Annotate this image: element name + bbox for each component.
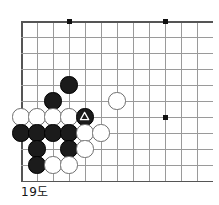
- black-stone-marked-triangle[interactable]: [76, 108, 93, 125]
- diagram-caption: 19도: [21, 182, 49, 199]
- go-board[interactable]: [0, 0, 219, 182]
- black-stone[interactable]: [60, 140, 77, 157]
- white-stone[interactable]: [108, 92, 125, 109]
- white-stone[interactable]: [60, 156, 77, 173]
- white-stone[interactable]: [76, 140, 93, 157]
- black-stone[interactable]: [60, 124, 77, 141]
- black-stone[interactable]: [44, 92, 61, 109]
- white-stone[interactable]: [60, 108, 77, 125]
- go-diagram: 19도: [0, 0, 219, 205]
- black-stone[interactable]: [28, 156, 45, 173]
- white-stone[interactable]: [44, 108, 61, 125]
- white-stone[interactable]: [92, 124, 109, 141]
- white-stone[interactable]: [12, 108, 29, 125]
- black-stone[interactable]: [12, 124, 29, 141]
- triangle-marker-icon: [77, 109, 92, 124]
- black-stone[interactable]: [28, 124, 45, 141]
- stone-layer: [0, 0, 219, 182]
- white-stone[interactable]: [28, 108, 45, 125]
- white-stone[interactable]: [44, 156, 61, 173]
- white-stone[interactable]: [76, 124, 93, 141]
- black-stone[interactable]: [44, 124, 61, 141]
- black-stone[interactable]: [28, 140, 45, 157]
- black-stone[interactable]: [60, 76, 77, 93]
